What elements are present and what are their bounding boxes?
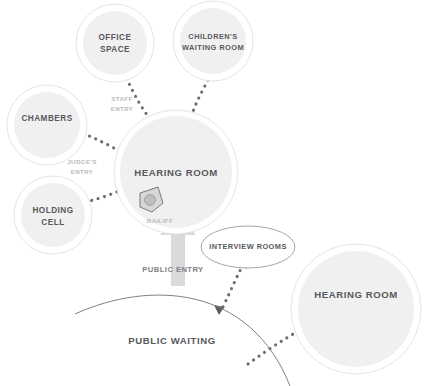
label-judges-entry-line1: JUDGE'S: [67, 158, 97, 165]
label-staff-entry-line1: STAFF: [111, 95, 132, 102]
node-chambers-label-line1: CHAMBERS: [21, 114, 72, 123]
node-office-space[interactable]: OFFICE SPACE: [76, 4, 154, 82]
path-interview-rooms: [223, 265, 243, 307]
node-chambers[interactable]: CHAMBERS: [7, 85, 87, 165]
label-bailiff: BAILIFF: [147, 217, 173, 224]
label-staff-entry-line2: ENTRY: [111, 105, 134, 112]
node-holding-cell-label-line1: HOLDING: [32, 206, 73, 215]
node-childrens-waiting-room-label-line1: CHILDREN'S: [188, 32, 237, 41]
label-public-waiting: PUBLIC WAITING: [128, 335, 215, 346]
node-hearing-room-main[interactable]: HEARING ROOM: [114, 110, 238, 234]
node-hearing-room-secondary[interactable]: HEARING ROOM: [291, 244, 421, 374]
label-public-entry: PUBLIC ENTRY: [142, 265, 203, 274]
node-childrens-waiting-room-label-line2: WAITING ROOM: [182, 43, 244, 52]
diagram-canvas: OFFICE SPACE CHILDREN'S WAITING ROOM CHA…: [0, 0, 426, 386]
node-hearing-room-main-label: HEARING ROOM: [134, 167, 218, 178]
node-office-space-label-line1: OFFICE: [99, 33, 132, 42]
node-office-space-label-line2: SPACE: [100, 45, 130, 54]
label-judges-entry-line2: ENTRY: [71, 168, 94, 175]
node-interview-rooms-label: INTERVIEW ROOMS: [209, 242, 287, 251]
circulation-diagram: OFFICE SPACE CHILDREN'S WAITING ROOM CHA…: [0, 0, 426, 386]
node-childrens-waiting-room[interactable]: CHILDREN'S WAITING ROOM: [173, 1, 253, 81]
node-holding-cell-label-line2: CELL: [41, 218, 64, 227]
node-holding-cell[interactable]: HOLDING CELL: [14, 176, 92, 254]
node-interview-rooms[interactable]: INTERVIEW ROOMS: [201, 226, 295, 268]
node-hearing-room-secondary-label: HEARING ROOM: [314, 289, 398, 300]
